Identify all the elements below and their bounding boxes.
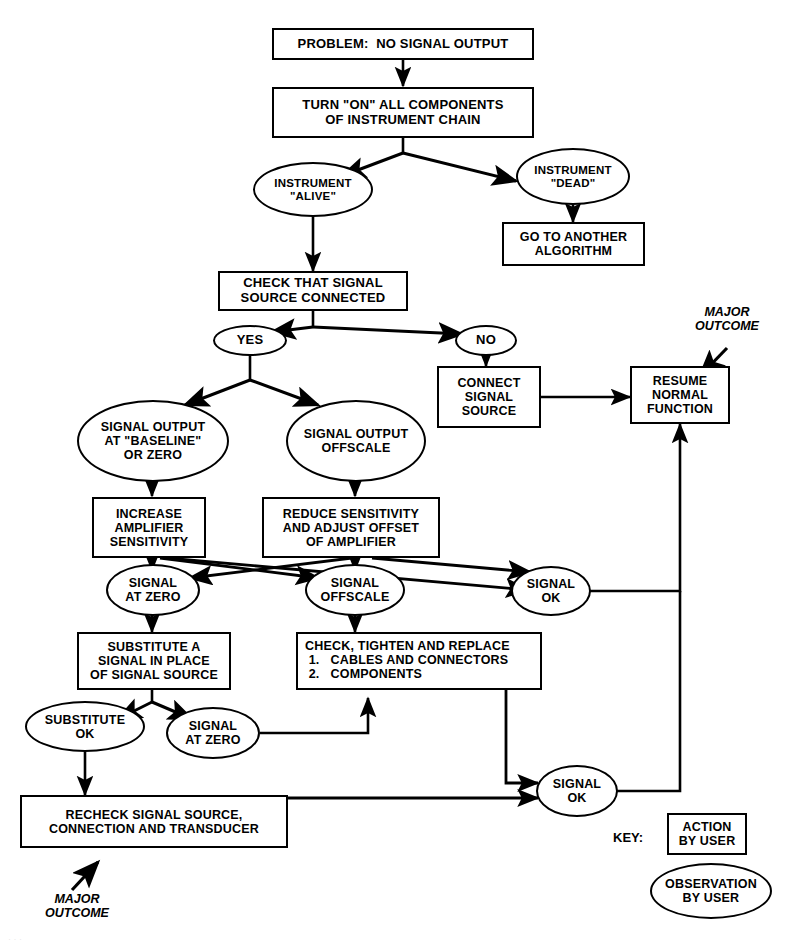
node-instrument-dead[interactable]: INSTRUMENT "DEAD" — [516, 148, 630, 205]
node-signal-output-offscale[interactable]: SIGNAL OUTPUT OFFSCALE — [286, 400, 426, 482]
node-increase-amplifier-sensitivity-label: INCREASE AMPLIFIER SENSITIVITY — [110, 507, 189, 549]
node-signal-ok-2-label: SIGNAL OK — [553, 777, 601, 805]
node-substitute-a-signal[interactable]: SUBSTITUTE A SIGNAL IN PLACE OF SIGNAL S… — [77, 632, 231, 690]
node-connect-signal-source-label: CONNECT SIGNAL SOURCE — [457, 376, 520, 418]
node-signal-output-offscale-label: SIGNAL OUTPUT OFFSCALE — [304, 427, 408, 455]
edge-ok2-to-resume — [602, 591, 680, 791]
node-check-tighten-replace-label: CHECK, TIGHTEN AND REPLACE 1. CABLES AND… — [305, 639, 533, 681]
node-turn-on[interactable]: TURN "ON" ALL COMPONENTS OF INSTRUMENT C… — [272, 87, 534, 138]
edge-yes-to-baseline — [185, 380, 250, 405]
flowchart-page: PROBLEM: NO SIGNAL OUTPUT TURN "ON" ALL … — [0, 0, 803, 948]
key-observation-by-user-label: OBSERVATION BY USER — [665, 877, 757, 905]
node-signal-at-zero-2[interactable]: SIGNAL AT ZERO — [166, 707, 260, 759]
node-signal-offscale-1[interactable]: SIGNAL OFFSCALE — [305, 564, 405, 616]
node-check-source-connected-label: CHECK THAT SIGNAL SOURCE CONNECTED — [241, 276, 386, 305]
edge-turn-on-to-dead — [403, 153, 516, 181]
node-connect-signal-source[interactable]: CONNECT SIGNAL SOURCE — [437, 366, 541, 428]
edge-ok1-to-resume — [570, 424, 680, 591]
node-check-tighten-replace[interactable]: CHECK, TIGHTEN AND REPLACE 1. CABLES AND… — [296, 632, 542, 690]
node-signal-ok-2[interactable]: SIGNAL OK — [536, 765, 618, 817]
key-action-by-user-label: ACTION BY USER — [679, 820, 736, 848]
edge-zero2-to-check — [260, 698, 368, 733]
node-recheck-signal-source[interactable]: RECHECK SIGNAL SOURCE, CONNECTION AND TR… — [20, 795, 288, 848]
scan-artifact: · · · — [8, 934, 22, 944]
node-signal-offscale-1-label: SIGNAL OFFSCALE — [321, 576, 390, 604]
node-signal-output-baseline-or-zero[interactable]: SIGNAL OUTPUT AT "BASELINE" OR ZERO — [77, 400, 229, 482]
node-signal-at-zero-1-label: SIGNAL AT ZERO — [125, 576, 180, 604]
node-no[interactable]: NO — [455, 325, 517, 356]
edge-reduce-to-ok — [372, 558, 530, 572]
node-recheck-signal-source-label: RECHECK SIGNAL SOURCE, CONNECTION AND TR… — [49, 808, 259, 836]
major-outcome-bottom-arrow — [72, 862, 98, 890]
node-resume-normal-function-label: RESUME NORMAL FUNCTION — [647, 374, 713, 416]
node-reduce-sensitivity-adjust-offset-label: REDUCE SENSITIVITY AND ADJUST OFFSET OF … — [283, 507, 419, 549]
annotation-major-outcome-bottom: MAJOR OUTCOME — [22, 892, 132, 921]
node-signal-ok-1-label: SIGNAL OK — [527, 577, 575, 605]
key-action-by-user: ACTION BY USER — [667, 813, 747, 855]
node-go-to-another-algorithm-label: GO TO ANOTHER ALGORITHM — [520, 230, 627, 258]
node-instrument-alive[interactable]: INSTRUMENT "ALIVE" — [253, 162, 373, 217]
node-problem[interactable]: PROBLEM: NO SIGNAL OUTPUT — [272, 28, 534, 60]
node-no-label: NO — [476, 333, 496, 348]
node-signal-at-zero-1[interactable]: SIGNAL AT ZERO — [106, 564, 200, 616]
node-signal-at-zero-2-label: SIGNAL AT ZERO — [185, 719, 240, 747]
node-problem-label: PROBLEM: NO SIGNAL OUTPUT — [298, 37, 509, 52]
key-observation-by-user: OBSERVATION BY USER — [650, 863, 772, 919]
node-signal-output-baseline-or-zero-label: SIGNAL OUTPUT AT "BASELINE" OR ZERO — [101, 420, 205, 462]
node-instrument-alive-label: INSTRUMENT "ALIVE" — [274, 177, 351, 203]
node-resume-normal-function[interactable]: RESUME NORMAL FUNCTION — [630, 366, 730, 424]
key-label: KEY: — [613, 830, 643, 845]
edge-check-to-no — [313, 327, 462, 334]
node-go-to-another-algorithm[interactable]: GO TO ANOTHER ALGORITHM — [502, 222, 645, 266]
node-increase-amplifier-sensitivity[interactable]: INCREASE AMPLIFIER SENSITIVITY — [92, 497, 206, 558]
node-turn-on-label: TURN "ON" ALL COMPONENTS OF INSTRUMENT C… — [302, 98, 503, 127]
edge-yes-to-offscale — [250, 380, 318, 405]
node-reduce-sensitivity-adjust-offset[interactable]: REDUCE SENSITIVITY AND ADJUST OFFSET OF … — [262, 497, 440, 558]
edge-check-to-ok2 — [506, 690, 538, 783]
node-substitute-ok-label: SUBSTITUTE OK — [45, 713, 125, 741]
node-substitute-a-signal-label: SUBSTITUTE A SIGNAL IN PLACE OF SIGNAL S… — [90, 640, 218, 682]
annotation-major-outcome-top: MAJOR OUTCOME — [672, 305, 782, 334]
node-check-source-connected[interactable]: CHECK THAT SIGNAL SOURCE CONNECTED — [218, 271, 408, 311]
node-instrument-dead-label: INSTRUMENT "DEAD" — [534, 164, 611, 190]
node-signal-ok-1[interactable]: SIGNAL OK — [511, 566, 591, 616]
node-yes[interactable]: YES — [213, 325, 287, 356]
node-yes-label: YES — [237, 333, 264, 348]
node-substitute-ok[interactable]: SUBSTITUTE OK — [25, 701, 145, 752]
